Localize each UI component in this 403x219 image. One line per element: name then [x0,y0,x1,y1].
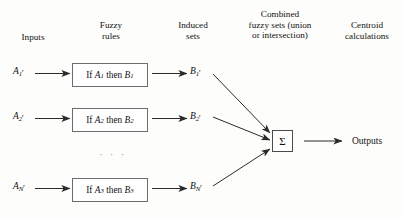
arrow-induced-3-to-sigma [213,149,270,186]
arrow-layer [0,0,403,219]
arrow-induced-2-to-sigma [213,117,270,140]
arrow-induced-1-to-sigma [213,74,270,133]
fuzzy-inference-diagram: Inputs Fuzzy rules Induced sets Combined… [0,0,403,219]
